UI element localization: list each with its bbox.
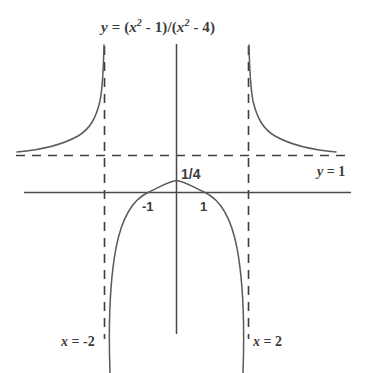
x-intercept-left-label: -1: [142, 200, 154, 213]
horizontal-asymptote-label: y = 1: [317, 165, 345, 179]
title-denominator-rest: - 4): [190, 19, 216, 35]
vertical-asymptote-left-label: x = -2: [61, 335, 95, 349]
val-value: -2: [83, 334, 95, 349]
vertical-asymptote-right-label: x = 2: [253, 335, 282, 349]
curve-right-branch: [249, 45, 336, 152]
ha-equals: =: [327, 164, 335, 179]
title-numerator-variable: x: [129, 19, 137, 35]
title-numerator-rest: - 1)/(: [142, 19, 177, 35]
plot-canvas: [0, 0, 371, 373]
var-variable: x: [253, 334, 260, 349]
var-value: 2: [275, 334, 282, 349]
peak-value-label: 1/4: [181, 167, 200, 181]
function-graph-figure: y = (x2 - 1)/(x2 - 4) 1/4 -1 1 y = 1 x =…: [0, 0, 371, 373]
title-lhs-variable: y: [101, 19, 108, 35]
curve-left-branch: [17, 45, 104, 152]
title-equals-sign: =: [112, 19, 121, 35]
x-intercept-right-label: 1: [200, 200, 207, 213]
ha-value: 1: [338, 164, 345, 179]
val-variable: x: [61, 334, 68, 349]
graph-title: y = (x2 - 1)/(x2 - 4): [101, 18, 215, 35]
